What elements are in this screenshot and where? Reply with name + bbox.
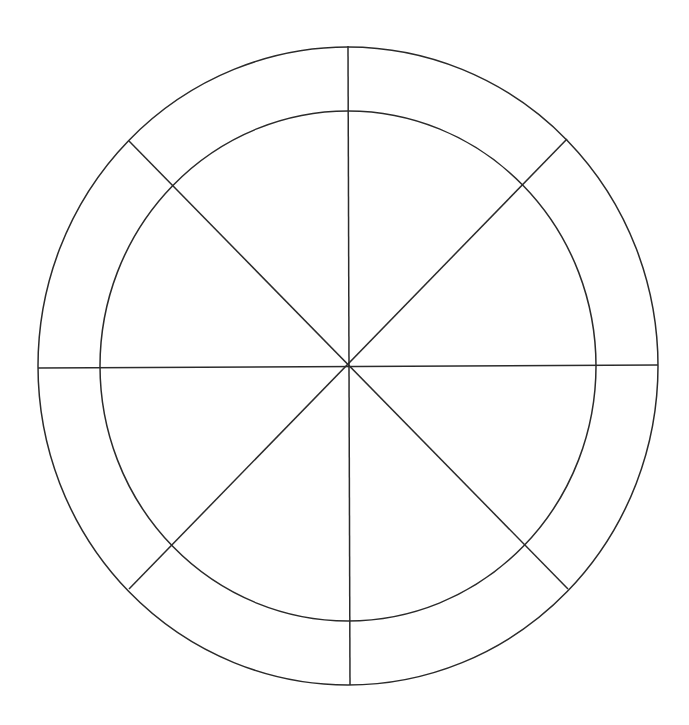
wheel-diagram-canvas <box>0 0 689 725</box>
spokes-group <box>38 46 658 685</box>
wheel-diagram <box>0 0 689 725</box>
